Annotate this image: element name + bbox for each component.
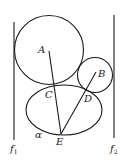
geometry-diagram: A B C D E α f1 f2 (0, 0, 126, 164)
label-f1: f1 (9, 143, 18, 155)
label-f2: f2 (109, 143, 118, 155)
label-e: E (55, 136, 64, 147)
label-b: B (97, 68, 105, 79)
label-d: D (83, 93, 92, 104)
circle-a (15, 16, 84, 85)
label-a: A (37, 44, 45, 55)
label-alpha: α (35, 129, 42, 140)
circle-b (78, 58, 113, 93)
label-c: C (45, 89, 53, 100)
